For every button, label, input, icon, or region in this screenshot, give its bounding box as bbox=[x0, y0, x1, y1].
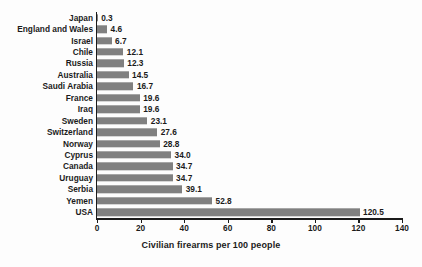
category-label: Norway bbox=[63, 139, 93, 147]
value-label: 4.6 bbox=[111, 25, 123, 33]
value-label: 0.3 bbox=[101, 14, 113, 22]
value-label: 39.1 bbox=[186, 185, 202, 193]
plot-area: Japan0.3England and Wales4.6Israel6.7Chi… bbox=[97, 12, 402, 218]
value-label: 19.6 bbox=[143, 105, 159, 113]
bar-row: Uruguay34.7 bbox=[97, 172, 402, 183]
category-label: Sweden bbox=[62, 117, 93, 125]
category-label: Iraq bbox=[78, 105, 93, 113]
value-label: 28.8 bbox=[163, 139, 179, 147]
bar-row: Australia14.5 bbox=[97, 69, 402, 80]
value-label: 6.7 bbox=[115, 36, 127, 44]
bar bbox=[97, 71, 129, 78]
bar-row: USA120.5 bbox=[97, 207, 402, 218]
value-label: 14.5 bbox=[132, 71, 148, 79]
bar bbox=[97, 128, 157, 135]
x-axis-tick-label: 120 bbox=[352, 224, 366, 232]
bar bbox=[97, 140, 160, 147]
bar-row: Israel6.7 bbox=[97, 35, 402, 46]
bar bbox=[97, 106, 140, 113]
category-label: Yemen bbox=[66, 197, 93, 205]
x-axis-tick-label: 0 bbox=[95, 224, 100, 232]
value-label: 52.8 bbox=[216, 197, 232, 205]
bar bbox=[97, 209, 360, 216]
bar bbox=[97, 117, 147, 124]
category-label: Canada bbox=[63, 162, 93, 170]
category-label: England and Wales bbox=[17, 25, 93, 33]
category-label: Israel bbox=[71, 36, 93, 44]
value-label: 16.7 bbox=[137, 82, 153, 90]
value-label: 12.1 bbox=[127, 48, 143, 56]
value-label: 27.6 bbox=[161, 128, 177, 136]
category-label: Uruguay bbox=[59, 174, 93, 182]
x-axis-tick-label: 60 bbox=[223, 224, 232, 232]
category-label: USA bbox=[75, 208, 93, 216]
bar-row: France19.6 bbox=[97, 92, 402, 103]
x-axis-tick-label: 140 bbox=[395, 224, 409, 232]
bar-row: Russia12.3 bbox=[97, 58, 402, 69]
x-axis-line bbox=[96, 218, 403, 220]
value-label: 34.7 bbox=[176, 174, 192, 182]
bar-row: Cyprus34.0 bbox=[97, 149, 402, 160]
category-label: Russia bbox=[66, 59, 93, 67]
category-label: Serbia bbox=[68, 185, 93, 193]
category-label: Chile bbox=[73, 48, 93, 56]
bar bbox=[97, 37, 112, 44]
x-axis-tick-label: 80 bbox=[267, 224, 276, 232]
bar bbox=[97, 48, 123, 55]
x-axis-tick-label: 20 bbox=[136, 224, 145, 232]
bar-row: Switzerland27.6 bbox=[97, 126, 402, 137]
category-label: Switzerland bbox=[47, 128, 93, 136]
bar bbox=[97, 25, 107, 32]
value-label: 34.7 bbox=[176, 162, 192, 170]
x-axis-title: Civilian firearms per 100 people bbox=[0, 240, 422, 250]
category-label: France bbox=[66, 94, 93, 102]
bar-row: Chile12.1 bbox=[97, 46, 402, 57]
bar-row: Japan0.3 bbox=[97, 12, 402, 23]
category-label: Australia bbox=[57, 71, 93, 79]
category-label: Saudi Arabia bbox=[43, 82, 93, 90]
value-label: 34.0 bbox=[175, 151, 191, 159]
bar bbox=[97, 197, 212, 204]
category-label: Cyprus bbox=[64, 151, 93, 159]
y-axis-line bbox=[96, 12, 97, 219]
bar bbox=[97, 151, 171, 158]
bar-row: Iraq19.6 bbox=[97, 104, 402, 115]
bar bbox=[97, 186, 182, 193]
bar-row: Canada34.7 bbox=[97, 161, 402, 172]
bar bbox=[97, 83, 133, 90]
bar-row: Sweden23.1 bbox=[97, 115, 402, 126]
value-label: 19.6 bbox=[143, 94, 159, 102]
value-label: 12.3 bbox=[127, 59, 143, 67]
bar bbox=[97, 174, 173, 181]
bar bbox=[97, 163, 173, 170]
value-label: 23.1 bbox=[151, 117, 167, 125]
bar-row: Norway28.8 bbox=[97, 138, 402, 149]
bar bbox=[97, 60, 124, 67]
x-axis-tick-label: 40 bbox=[180, 224, 189, 232]
value-label: 120.5 bbox=[363, 208, 384, 216]
bar-chart: Japan0.3England and Wales4.6Israel6.7Chi… bbox=[0, 0, 422, 267]
x-axis-tick-label: 100 bbox=[308, 224, 322, 232]
bar-row: Saudi Arabia16.7 bbox=[97, 81, 402, 92]
bar-row: Yemen52.8 bbox=[97, 195, 402, 206]
category-label: Japan bbox=[69, 14, 93, 22]
bar-row: England and Wales4.6 bbox=[97, 23, 402, 34]
bar bbox=[97, 94, 140, 101]
bar-row: Serbia39.1 bbox=[97, 184, 402, 195]
